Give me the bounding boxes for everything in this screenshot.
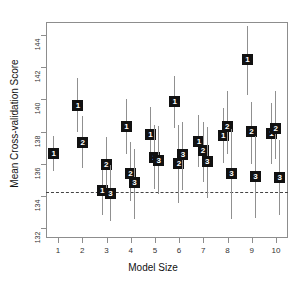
data-point-marker: 3 (177, 149, 188, 160)
data-point-marker: 3 (250, 171, 261, 182)
data-point-marker: 1 (121, 121, 132, 132)
cross-validation-score-chart: 132134136138140142144 12345678910 112123… (0, 0, 306, 287)
data-point-marker: 3 (105, 188, 116, 199)
data-point-marker: 3 (129, 177, 140, 188)
data-point-marker: 1 (48, 148, 59, 159)
data-point-marker: 1 (169, 96, 180, 107)
data-point-marker: 3 (153, 155, 164, 166)
data-point-marker: 3 (226, 168, 237, 179)
data-points-layer: 112123123123123123123123123 (0, 0, 306, 287)
data-point-marker: 2 (270, 123, 281, 134)
x-axis-title: Model Size (0, 262, 306, 273)
data-point-marker: 1 (242, 54, 253, 65)
data-point-marker: 3 (202, 156, 213, 167)
data-point-marker: 1 (72, 100, 83, 111)
data-point-marker: 3 (274, 172, 285, 183)
data-point-marker: 2 (77, 137, 88, 148)
y-axis-title: Mean Cross-validation Score (9, 24, 20, 224)
